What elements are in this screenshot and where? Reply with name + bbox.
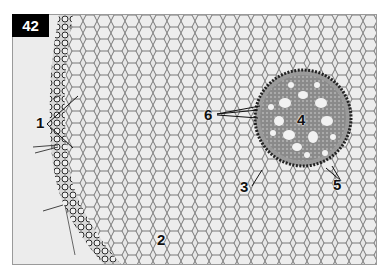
figure-number-badge: 42 xyxy=(12,14,49,37)
leader-lines xyxy=(0,0,386,280)
label-1: 1 xyxy=(36,114,44,131)
label-5: 5 xyxy=(333,176,341,193)
label-2: 2 xyxy=(157,231,165,248)
label-6: 6 xyxy=(204,106,212,123)
label-3: 3 xyxy=(240,178,248,195)
label-4: 4 xyxy=(297,111,305,128)
